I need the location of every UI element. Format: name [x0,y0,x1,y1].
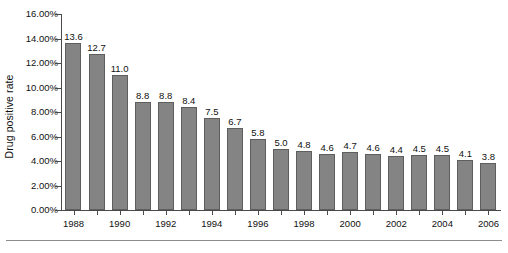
bar [296,151,312,210]
bar [89,54,105,210]
x-axis-tick-label: 2004 [425,217,460,230]
y-axis-tick-mark [55,63,61,64]
x-axis-tick-mark [373,211,374,215]
y-axis-tick-mark [55,39,61,40]
x-axis-tick-mark [143,211,144,215]
bar-value-label: 5.0 [269,137,292,148]
x-axis-tick-mark [212,211,213,215]
x-axis-tick-mark [281,211,282,215]
x-axis-tick-label: 1996 [240,217,275,230]
x-axis-tick-label: 1992 [148,217,183,230]
bar [480,163,496,210]
bar [204,118,220,210]
bar [388,156,404,210]
y-axis-tick-label: 2.00% [14,180,58,192]
y-axis-tick-label: 0.00% [14,204,58,216]
x-axis-tick-mark [97,211,98,215]
bar-value-label: 13.6 [62,31,85,42]
y-axis-tick-mark [55,161,61,162]
bar [181,107,197,210]
y-axis-tick-labels: 16.00%14.00%12.00%10.00%8.00%6.00%4.00%2… [14,0,58,253]
x-axis-tick-label: 1998 [287,217,322,230]
bar-value-label: 4.5 [431,143,454,154]
bar [434,155,450,210]
y-axis-tick-mark [55,210,61,211]
bar-value-label: 12.7 [85,42,108,53]
bar [319,154,335,210]
bar [65,43,81,210]
bar [250,139,266,210]
x-axis-tick-mark [166,211,167,215]
x-axis-tick-label: 1988 [56,217,91,230]
y-axis-tick-label: 16.00% [14,8,58,20]
x-axis-tick-mark [189,211,190,215]
x-axis-tick-mark [396,211,397,215]
bar-value-label: 8.8 [154,90,177,101]
x-axis-tick-label: 2000 [333,217,368,230]
y-axis-tick-mark [55,186,61,187]
bar-value-label: 4.7 [339,140,362,151]
x-axis-tick-mark [120,211,121,215]
x-axis-tick-label: 2002 [379,217,414,230]
bar [227,128,243,210]
y-axis-tick-label: 8.00% [14,106,58,118]
bar-value-label: 4.8 [293,139,316,150]
bar-value-label: 8.8 [131,90,154,101]
bar-value-label: 7.5 [200,106,223,117]
bar [365,154,381,210]
x-axis-tick-mark [327,211,328,215]
y-axis-tick-mark [55,137,61,138]
bar-value-label: 4.6 [362,142,385,153]
x-axis-tick-mark [465,211,466,215]
x-axis-tick-label: 1990 [102,217,137,230]
bottom-divider-rule [6,240,502,241]
x-axis-tick-mark [235,211,236,215]
bar-chart-figure: Drug positive rate 16.00%14.00%12.00%10.… [0,0,508,253]
x-axis-tick-mark [304,211,305,215]
y-axis-tick-label: 12.00% [14,57,58,69]
x-axis-tick-mark [350,211,351,215]
x-axis-tick-label: 2006 [471,217,506,230]
bar [342,152,358,210]
y-axis-tick-mark [55,112,61,113]
y-axis-tick-label: 14.00% [14,33,58,45]
x-axis-tick-mark [442,211,443,215]
y-axis-tick-label: 6.00% [14,131,58,143]
bar [135,102,151,210]
bar-value-label: 3.8 [477,151,500,162]
x-axis-tick-mark [74,211,75,215]
plot-area [62,14,500,210]
x-axis-tick-mark [419,211,420,215]
bar-value-label: 4.5 [408,143,431,154]
x-axis-tick-label: 1994 [194,217,229,230]
bar [273,149,289,210]
y-axis-tick-mark [55,14,61,15]
bar-value-label: 4.1 [454,148,477,159]
y-axis-tick-label: 10.00% [14,82,58,94]
bar [411,155,427,210]
bar [457,160,473,210]
y-axis-tick-label: 4.00% [14,155,58,167]
bar [158,102,174,210]
bar-value-label: 11.0 [108,63,131,74]
bar-value-label: 4.4 [385,144,408,155]
bar-value-label: 5.8 [246,127,269,138]
x-axis-tick-mark [258,211,259,215]
bar-value-label: 6.7 [223,116,246,127]
x-axis-tick-mark [488,211,489,215]
bar [112,75,128,210]
y-axis-tick-mark [55,88,61,89]
bar-value-label: 4.6 [316,142,339,153]
bar-value-label: 8.4 [177,95,200,106]
